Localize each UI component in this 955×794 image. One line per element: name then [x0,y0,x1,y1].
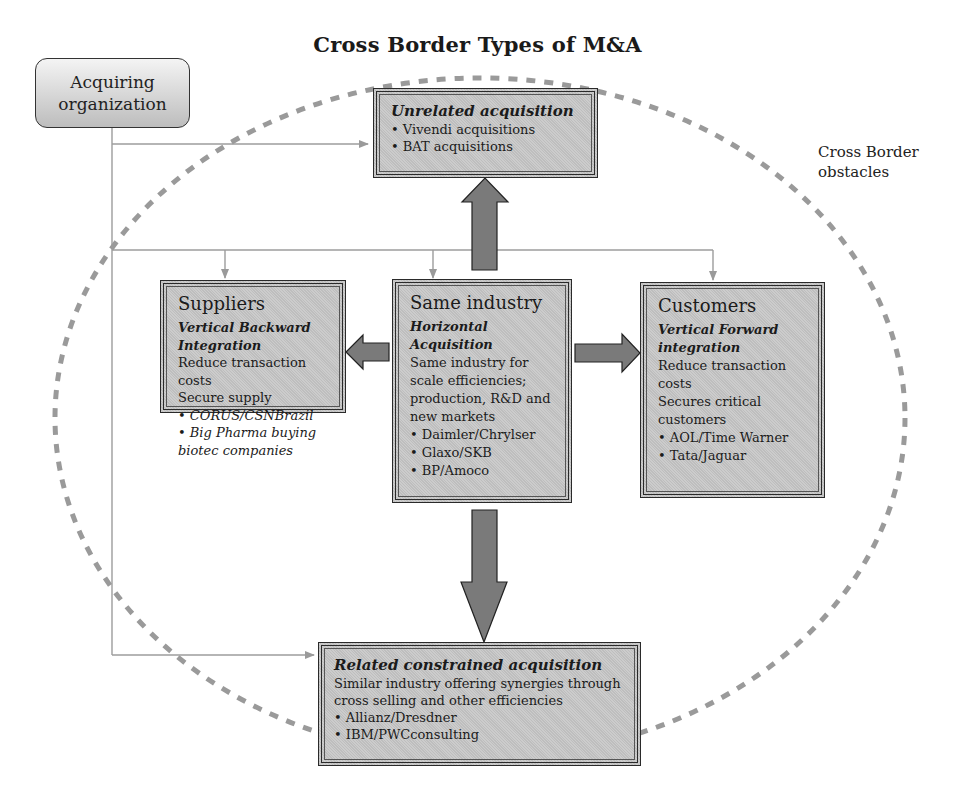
list-item: AOL/Time Warner [658,429,807,447]
suppliers-sub-2: Integration [178,337,328,355]
same-industry-sub-1: Horizontal [410,318,554,336]
list-item: Daimler/Chrylser [410,426,554,444]
customers-text-2: Secures critical customers [658,393,807,429]
customers-heading: Customers [658,295,807,317]
customers-sub-2: integration [658,339,807,357]
same-industry-sub-2: Acquisition [410,336,554,354]
customers-sub-1: Vertical Forward [658,321,807,339]
list-item: BAT acquisitions [391,138,580,155]
same-industry-text-1: Same industry for scale efficiencies; pr… [410,354,554,426]
obstacles-line1: Cross Border [818,142,919,162]
suppliers-text-2: Secure supply [178,389,328,407]
suppliers-box: Suppliers Vertical Backward Integration … [160,280,346,413]
customers-box: Customers Vertical Forward integration R… [640,282,825,498]
same-industry-heading: Same industry [410,292,554,314]
related-list: Allianz/Dresdner IBM/PWCconsulting [334,709,625,743]
arrow-up-to-unrelated [462,178,508,270]
list-item: Glaxo/SKB [410,444,554,462]
arrow-down-to-related [461,510,507,642]
suppliers-heading: Suppliers [178,293,328,315]
unrelated-heading: Unrelated acquisition [391,102,580,121]
suppliers-text-1: Reduce transaction costs [178,354,328,389]
list-item: CORUS/CSNBrazil [178,407,328,425]
list-item: IBM/PWCconsulting [334,726,625,743]
cross-border-obstacles-label: Cross Border obstacles [818,142,919,182]
related-heading: Related constrained acquisition [334,656,625,675]
unrelated-list: Vivendi acquisitions BAT acquisitions [391,121,580,155]
arrow-left-to-suppliers [346,335,389,369]
unrelated-acquisition-box: Unrelated acquisition Vivendi acquisitio… [373,88,598,178]
customers-list: AOL/Time Warner Tata/Jaguar [658,429,807,465]
suppliers-sub-1: Vertical Backward [178,319,328,337]
list-item: Allianz/Dresdner [334,709,625,726]
list-item: Tata/Jaguar [658,447,807,465]
list-item: BP/Amoco [410,462,554,480]
acquiring-org-line2: organization [58,93,166,115]
obstacles-line2: obstacles [818,162,919,182]
arrow-right-to-customers [575,334,640,372]
same-industry-box: Same industry Horizontal Acquisition Sam… [392,279,572,503]
list-item: Big Pharma buying biotec companies [178,424,328,459]
same-industry-list: Daimler/Chrylser Glaxo/SKB BP/Amoco [410,426,554,480]
list-item: Vivendi acquisitions [391,121,580,138]
acquiring-org-line1: Acquiring [58,71,166,93]
acquiring-organization-node: Acquiring organization [35,58,190,128]
related-text-1: Similar industry offering synergies thro… [334,675,625,709]
related-constrained-box: Related constrained acquisition Similar … [318,642,641,766]
customers-text-1: Reduce transaction costs [658,357,807,393]
suppliers-list: CORUS/CSNBrazil Big Pharma buying biotec… [178,407,328,460]
